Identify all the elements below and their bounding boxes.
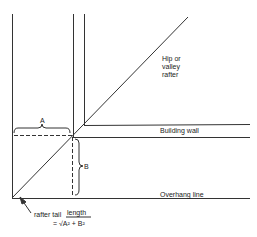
diagram-lines — [0, 0, 257, 237]
hip-label-line3: rafter — [162, 71, 181, 79]
hip-rafter-line — [12, 17, 188, 198]
dim-a-label: A — [40, 117, 45, 125]
hip-label-line1: Hip or — [162, 55, 181, 63]
brace-b — [75, 139, 83, 195]
formula-label: = √A² + B² — [53, 220, 85, 228]
hip-rafter-label: Hip or valley rafter — [162, 55, 181, 79]
length-label: length — [67, 209, 86, 217]
rafter-tail-label: rafter tail — [34, 211, 61, 219]
rafter-tail-diagram: Hip or valley rafter Building wall Overh… — [0, 0, 257, 237]
building-wall-label: Building wall — [160, 127, 199, 135]
brace-a — [14, 124, 70, 133]
dim-b-label: B — [84, 163, 89, 171]
overhang-line-label: Overhang line — [160, 191, 204, 199]
hip-label-line2: valley — [162, 63, 181, 71]
building-wall-top-line — [84, 125, 250, 126]
